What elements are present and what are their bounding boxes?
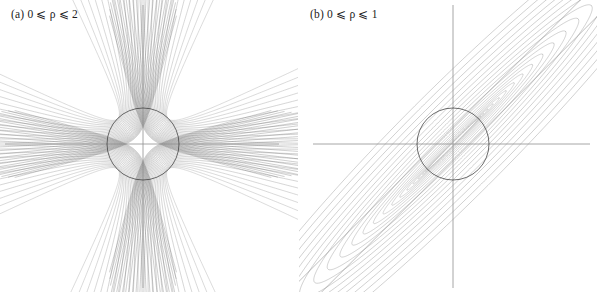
panel-b-plot	[299, 0, 597, 292]
panel-b-label: (b) 0 ⩽ ρ ⩽ 1	[310, 7, 378, 21]
panel-a-label: (a) 0 ⩽ ρ ⩽ 2	[11, 7, 78, 21]
panel-a: (a) 0 ⩽ ρ ⩽ 2	[0, 0, 298, 292]
panel-b: (b) 0 ⩽ ρ ⩽ 1	[299, 0, 597, 292]
figure-container: (a) 0 ⩽ ρ ⩽ 2 (b) 0 ⩽ ρ ⩽ 1	[0, 0, 597, 292]
panel-a-plot	[0, 0, 298, 292]
